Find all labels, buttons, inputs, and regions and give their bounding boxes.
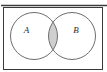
set-b-label: B — [73, 25, 79, 35]
set-a-label: A — [23, 25, 30, 35]
venn-diagram-canvas: A B — [0, 0, 107, 72]
venn-diagram-figure: A B — [0, 0, 107, 72]
